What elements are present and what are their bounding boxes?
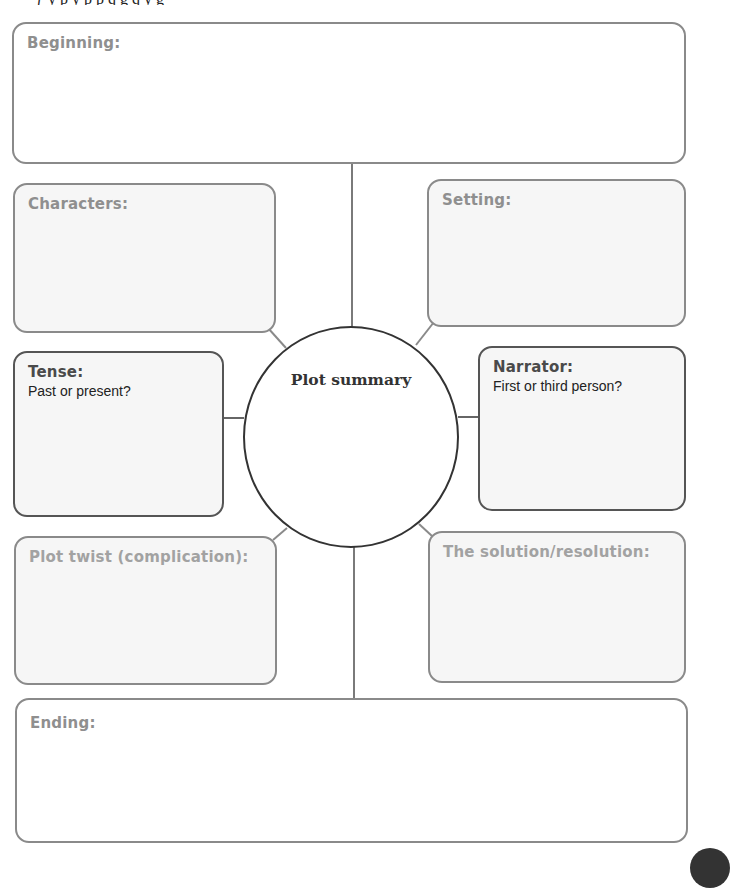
narrator-label: Narrator: [493,358,684,376]
narrator-prompt: First or third person? [493,377,684,395]
tense-box[interactable]: Tense: Past or present? [13,351,224,517]
characters-label: Characters: [28,195,274,213]
plot-summary-circle[interactable]: Plot summary [243,326,459,548]
plot-twist-box[interactable]: Plot twist (complication): [14,536,277,685]
tense-label: Tense: [28,363,222,381]
setting-box[interactable]: Setting: [427,179,686,327]
solution-box[interactable]: The solution/resolution: [428,531,686,683]
page-corner-tab [690,848,730,888]
ending-label: Ending: [30,714,686,732]
beginning-box[interactable]: Beginning: [12,22,686,164]
ending-box[interactable]: Ending: [15,698,688,843]
tense-prompt: Past or present? [28,382,222,400]
beginning-label: Beginning: [27,34,684,52]
setting-label: Setting: [442,191,684,209]
characters-box[interactable]: Characters: [13,183,276,333]
solution-label: The solution/resolution: [443,543,684,561]
plot-twist-label: Plot twist (complication): [29,548,275,566]
narrator-box[interactable]: Narrator: First or third person? [478,346,686,511]
plot-summary-label: Plot summary [245,370,457,389]
